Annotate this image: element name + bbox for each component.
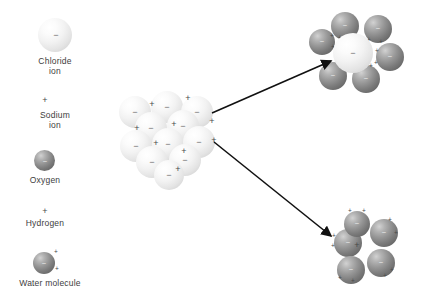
arrow-layer <box>0 0 423 297</box>
arrow-to-sodium <box>214 142 331 236</box>
arrow-to-chloride <box>212 61 331 113</box>
diagram-canvas: − Chloride ion + Sodium ion − Oxygen + H… <box>0 0 423 297</box>
